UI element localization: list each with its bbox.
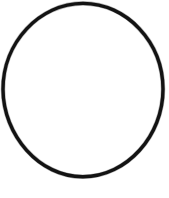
oval-shape-svg: [0, 0, 169, 198]
drawing-canvas: [0, 0, 169, 198]
